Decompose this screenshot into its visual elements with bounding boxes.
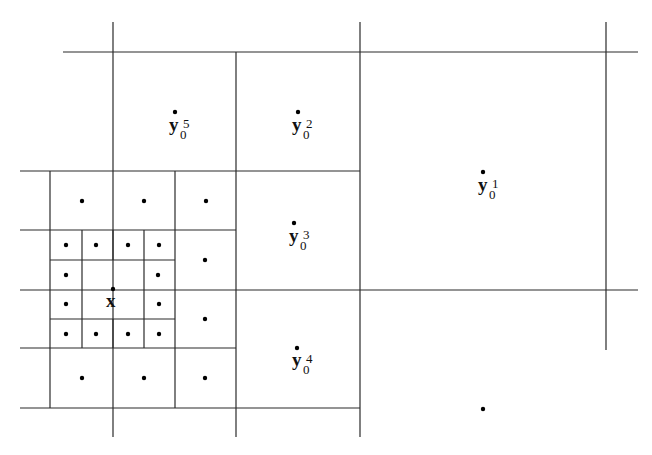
cell-point	[157, 302, 161, 306]
cell-point	[481, 407, 485, 411]
point-y3-sup: 3	[303, 227, 310, 242]
cell-point	[94, 243, 98, 247]
point-y3: y 0 3	[289, 221, 310, 253]
point-x: x	[106, 287, 116, 311]
point-y1: y 0 1	[478, 170, 499, 202]
cell-point	[157, 243, 161, 247]
cell-point	[142, 376, 146, 380]
point-y4: y 0 4	[292, 346, 313, 377]
point-y2: y 0 2	[292, 110, 313, 142]
cell-point	[64, 332, 68, 336]
point-y5: y 0 5	[169, 110, 190, 142]
cell-point	[80, 376, 84, 380]
cell-point	[203, 376, 207, 380]
diagram-canvas: x y 0 5 y 0 2 y 0 3 y 0 4 y 0 1	[0, 0, 652, 455]
point-y1-sup: 1	[492, 176, 499, 191]
point-y2-label: y	[292, 114, 302, 135]
cell-point	[94, 332, 98, 336]
cell-point	[64, 302, 68, 306]
point-y5-sup: 5	[183, 116, 190, 131]
cell-point	[204, 199, 208, 203]
grid-lines	[20, 22, 638, 437]
cell-point	[64, 273, 68, 277]
cell-point	[64, 243, 68, 247]
point-y1-label: y	[478, 174, 488, 195]
point-y2-sup: 2	[306, 116, 313, 131]
point-y4-sup: 4	[306, 351, 313, 366]
cell-point	[142, 199, 146, 203]
point-y4-label: y	[292, 349, 302, 370]
cell-point	[156, 273, 160, 277]
cell-point	[80, 199, 84, 203]
cell-point	[203, 258, 207, 262]
cell-point	[157, 332, 161, 336]
cell-point	[126, 332, 130, 336]
cell-point	[203, 317, 207, 321]
point-y3-label: y	[289, 225, 299, 246]
point-x-label: x	[106, 290, 116, 311]
cell-point	[126, 243, 130, 247]
cell-points	[64, 199, 485, 411]
point-y5-label: y	[169, 114, 179, 135]
